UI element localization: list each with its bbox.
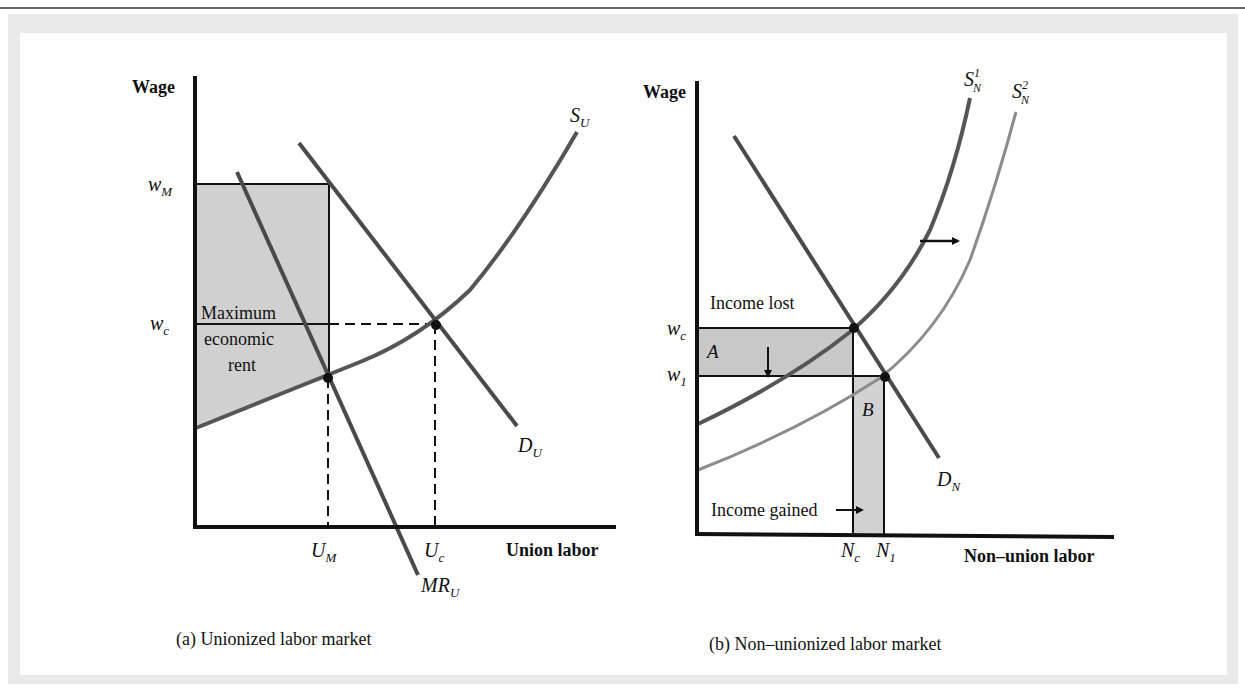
panel-b-nonunionized: Wage Non–union labor wc w1 Nc N1 S1N S2N… xyxy=(643,66,1114,655)
competitive-point xyxy=(431,320,441,330)
figure-svg: Wage Union labor wM wc UM Uc SU DU MRU M… xyxy=(0,0,1245,689)
rent-label-line1: Maximum xyxy=(201,303,276,323)
label-su: SU xyxy=(570,104,591,130)
area-a-region xyxy=(698,328,853,376)
tick-um: UM xyxy=(311,539,337,565)
y-axis-label-a: Wage xyxy=(132,77,175,97)
y-axis-label-b: Wage xyxy=(643,82,686,102)
caption-b: (b) Non–unionized labor market xyxy=(709,634,941,655)
tick-nc: Nc xyxy=(840,539,860,565)
label-mru: MRU xyxy=(420,574,461,600)
label-du: DU xyxy=(517,434,543,460)
area-b-label: B xyxy=(862,399,874,420)
monopoly-point xyxy=(323,373,333,383)
tick-w1: w1 xyxy=(667,363,687,389)
tick-wc-a: wc xyxy=(150,312,169,338)
tick-wc-b: wc xyxy=(667,317,686,343)
label-sn1: S1N xyxy=(964,66,982,95)
rent-label-line3: rent xyxy=(228,355,256,375)
label-sn2: S2N xyxy=(1012,78,1030,107)
area-a-label: A xyxy=(705,341,719,362)
initial-equilibrium-point xyxy=(849,323,859,333)
tick-n1: N1 xyxy=(875,539,896,565)
x-axis-label-a: Union labor xyxy=(506,540,599,560)
tick-uc: Uc xyxy=(424,539,444,565)
tick-wm: wM xyxy=(148,173,173,199)
income-lost-label: Income lost xyxy=(710,293,794,313)
new-equilibrium-point xyxy=(880,372,890,382)
rent-label-line2: economic xyxy=(204,329,274,349)
panel-a-unionized: Wage Union labor wM wc UM Uc SU DU MRU M… xyxy=(132,76,616,650)
label-dn: DN xyxy=(936,468,961,494)
x-axis-label-b: Non–union labor xyxy=(964,546,1095,566)
x-axis-b xyxy=(695,534,1114,537)
income-gained-label: Income gained xyxy=(711,500,817,520)
caption-a: (a) Unionized labor market xyxy=(176,629,371,650)
